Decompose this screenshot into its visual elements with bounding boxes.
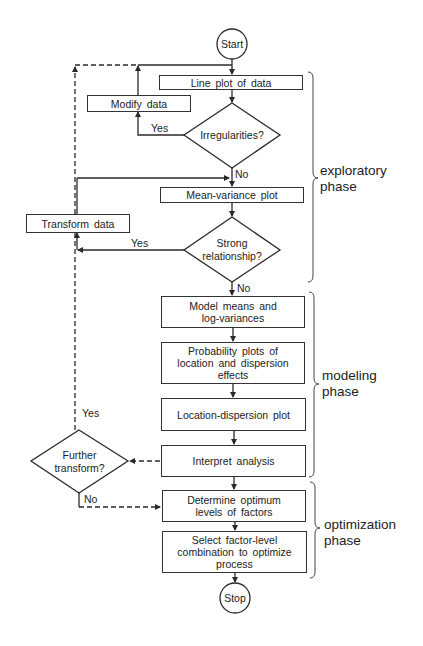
probability-plots-line2: location and dispersion bbox=[177, 357, 288, 369]
model-means-box: Model means and log-variances bbox=[161, 296, 305, 328]
strong-relationship-yes-label: Yes bbox=[131, 237, 148, 249]
transform-data-label: Transform data bbox=[42, 218, 115, 230]
flowchart: Start Stop Line plot of data Modify data… bbox=[0, 0, 423, 646]
strong-relationship-decision: Strong relationship? bbox=[184, 237, 280, 262]
optimization-phase-line1: optimization bbox=[324, 517, 396, 533]
strong-relationship-line1: Strong bbox=[184, 237, 280, 250]
exploratory-brace bbox=[308, 72, 318, 282]
irregularities-decision: Irregularities? bbox=[184, 129, 280, 142]
further-transform-line2: transform? bbox=[31, 462, 128, 475]
strong-relationship-no-label: No bbox=[237, 282, 250, 294]
select-factor-level-line3: process bbox=[216, 558, 253, 570]
further-transform-decision: Further transform? bbox=[31, 449, 128, 474]
line-plot-label: Line plot of data bbox=[191, 77, 272, 89]
stop-label: Stop bbox=[224, 592, 246, 604]
mean-variance-box: Mean-variance plot bbox=[160, 187, 304, 203]
modeling-brace bbox=[309, 292, 319, 477]
further-transform-line1: Further bbox=[31, 449, 128, 462]
select-factor-level-line1: Select factor-level bbox=[192, 534, 277, 546]
modeling-phase-line2: phase bbox=[322, 384, 377, 400]
irregularities-yes-label: Yes bbox=[151, 122, 168, 134]
location-dispersion-label: Location-dispersion plot bbox=[177, 409, 290, 421]
modeling-phase-label: modeling phase bbox=[322, 368, 377, 400]
interpret-analysis-box: Interpret analysis bbox=[161, 445, 306, 477]
strong-relationship-line2: relationship? bbox=[184, 250, 280, 263]
irregularities-no-label: No bbox=[235, 168, 248, 180]
model-means-line1: Model means and bbox=[189, 300, 276, 312]
optimization-phase-line2: phase bbox=[324, 533, 396, 549]
start-label: Start bbox=[221, 38, 243, 50]
location-dispersion-box: Location-dispersion plot bbox=[161, 398, 306, 431]
select-factor-level-line2: combination to optimize bbox=[177, 546, 291, 558]
exploratory-phase-line1: exploratory bbox=[320, 163, 387, 179]
determine-optimum-line1: Determine optimum bbox=[187, 494, 281, 506]
interpret-analysis-label: Interpret analysis bbox=[193, 455, 275, 467]
optimization-brace bbox=[310, 482, 320, 578]
exploratory-phase-line2: phase bbox=[320, 179, 387, 195]
mean-variance-label: Mean-variance plot bbox=[186, 189, 277, 201]
irregularities-label: Irregularities? bbox=[200, 129, 264, 141]
further-transform-yes-label: Yes bbox=[82, 407, 99, 419]
determine-optimum-line2: levels of factors bbox=[196, 506, 273, 518]
probability-plots-line1: Probability plots of bbox=[188, 345, 278, 357]
stop-terminal: Stop bbox=[220, 583, 250, 613]
modify-data-box: Modify data bbox=[87, 95, 191, 112]
modeling-phase-line1: modeling bbox=[322, 368, 377, 384]
transform-data-box: Transform data bbox=[26, 214, 130, 233]
modify-data-label: Modify data bbox=[111, 98, 167, 110]
determine-optimum-box: Determine optimum levels of factors bbox=[162, 490, 306, 522]
select-factor-level-box: Select factor-level combination to optim… bbox=[162, 531, 307, 573]
probability-plots-line3: effects bbox=[218, 369, 249, 381]
exploratory-phase-label: exploratory phase bbox=[320, 163, 387, 195]
model-means-line2: log-variances bbox=[202, 312, 264, 324]
probability-plots-box: Probability plots of location and disper… bbox=[161, 342, 305, 384]
line-plot-box: Line plot of data bbox=[159, 75, 303, 90]
further-transform-no-label: No bbox=[84, 493, 97, 505]
optimization-phase-label: optimization phase bbox=[324, 517, 396, 549]
start-terminal: Start bbox=[217, 29, 247, 59]
